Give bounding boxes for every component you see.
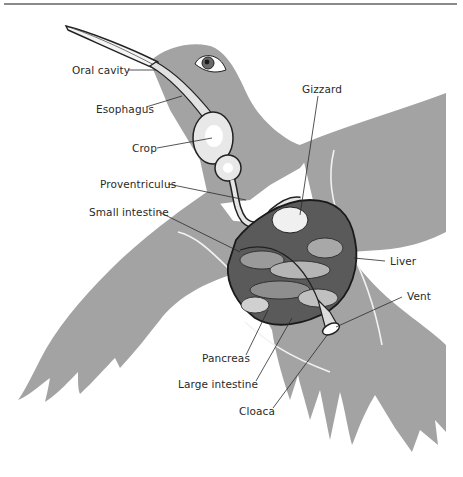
label-crop: Crop [132, 142, 157, 154]
label-cloaca: Cloaca [239, 405, 275, 417]
label-liver: Liver [390, 255, 416, 267]
label-large-intestine: Large intestine [178, 378, 258, 390]
label-small-intestine: Small intestine [89, 206, 169, 218]
label-vent: Vent [407, 290, 431, 302]
label-proventriculus: Proventriculus [100, 178, 176, 190]
hummingbird-illustration [0, 0, 463, 477]
label-oral-cavity: Oral cavity [72, 64, 130, 76]
label-gizzard: Gizzard [302, 83, 342, 95]
label-pancreas: Pancreas [202, 352, 250, 364]
label-esophagus: Esophagus [96, 103, 154, 115]
